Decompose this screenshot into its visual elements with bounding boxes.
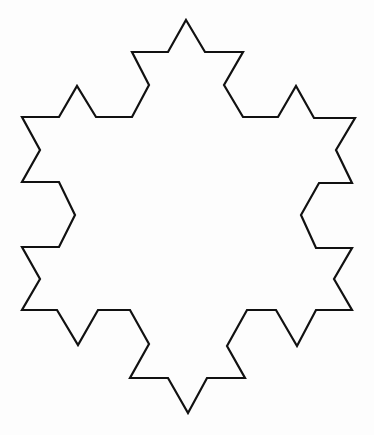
snowflake-outline xyxy=(22,20,355,413)
koch-snowflake xyxy=(0,0,374,435)
diagram-canvas xyxy=(0,0,374,435)
